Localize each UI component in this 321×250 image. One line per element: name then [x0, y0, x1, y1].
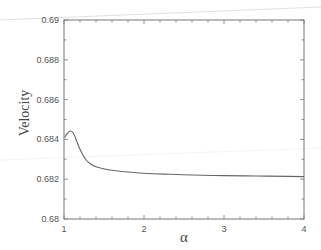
axis-ticks	[64, 20, 304, 219]
x-axis-title: α	[180, 229, 188, 245]
velocity-series-line	[65, 131, 304, 177]
x-tick-label: 4	[301, 224, 306, 234]
x-tick-label: 1	[61, 224, 66, 234]
y-axis-title: Velocity	[17, 90, 32, 137]
y-tick-label: 0.688	[36, 55, 59, 65]
artifact-line-mid	[0, 148, 321, 160]
y-tick-label: 0.684	[36, 134, 59, 144]
x-tick-label: 2	[141, 224, 146, 234]
y-tick-label: 0.69	[41, 15, 59, 25]
plot-frame	[64, 20, 304, 219]
y-tick-label: 0.686	[36, 95, 59, 105]
velocity-chart: 12340.680.6820.6840.6860.6880.69 Velocit…	[0, 0, 321, 250]
x-tick-label: 3	[221, 224, 226, 234]
y-tick-label: 0.68	[41, 214, 59, 224]
axis-tick-labels: 12340.680.6820.6840.6860.6880.69	[36, 15, 306, 234]
y-tick-label: 0.682	[36, 174, 59, 184]
